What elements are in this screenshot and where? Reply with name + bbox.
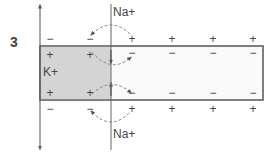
svg-text:+: +	[168, 32, 175, 46]
svg-text:−: −	[209, 86, 216, 100]
charges-outside-bottom: − − + + + +	[46, 102, 256, 116]
svg-text:−: −	[168, 46, 175, 60]
na-label-bottom: Na+	[113, 127, 135, 141]
step-number: 3	[10, 34, 18, 50]
svg-text:−: −	[209, 46, 216, 60]
svg-text:+: +	[46, 86, 53, 100]
k-label: K+	[43, 65, 58, 79]
na-label-top: Na+	[113, 5, 135, 19]
svg-text:+: +	[209, 32, 216, 46]
svg-text:+: +	[86, 48, 93, 62]
svg-text:+: +	[86, 86, 93, 100]
svg-text:−: −	[86, 32, 93, 46]
svg-text:+: +	[209, 102, 216, 116]
svg-text:+: +	[46, 48, 53, 62]
svg-text:+: +	[128, 102, 135, 116]
svg-text:+: +	[128, 32, 135, 46]
svg-text:+: +	[168, 102, 175, 116]
svg-text:+: +	[249, 102, 256, 116]
svg-text:+: +	[249, 32, 256, 46]
svg-text:−: −	[249, 86, 256, 100]
svg-text:−: −	[46, 32, 53, 46]
svg-text:−: −	[46, 102, 53, 116]
svg-text:−: −	[128, 46, 135, 60]
svg-text:−: −	[128, 86, 135, 100]
action-potential-diagram: 3 Na+ Na+ K+ − − + + + + + + − − − − + +…	[0, 0, 268, 155]
svg-text:−: −	[168, 86, 175, 100]
charges-outside-top: − − + + + +	[46, 32, 256, 46]
svg-text:−: −	[86, 102, 93, 116]
svg-text:−: −	[249, 46, 256, 60]
